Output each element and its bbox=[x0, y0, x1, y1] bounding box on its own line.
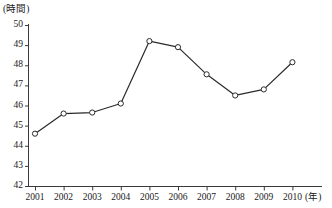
data-point-marker bbox=[233, 93, 238, 98]
data-point-markers bbox=[32, 39, 295, 137]
y-axis-tick-marks bbox=[25, 26, 29, 187]
data-point-marker bbox=[204, 72, 209, 77]
data-point-marker bbox=[32, 131, 37, 136]
axis-lines bbox=[28, 24, 322, 187]
data-point-marker bbox=[175, 45, 180, 50]
data-point-marker bbox=[61, 111, 66, 116]
data-point-marker bbox=[118, 101, 123, 106]
data-point-marker bbox=[261, 87, 266, 92]
data-point-marker bbox=[147, 39, 152, 44]
data-point-marker bbox=[90, 110, 95, 115]
plot-area bbox=[0, 0, 332, 208]
line-chart: (時間) (年) 424344454647484950 200120022003… bbox=[0, 0, 332, 208]
data-point-marker bbox=[290, 60, 295, 65]
x-axis-tick-marks bbox=[36, 187, 293, 191]
data-line bbox=[35, 41, 292, 134]
